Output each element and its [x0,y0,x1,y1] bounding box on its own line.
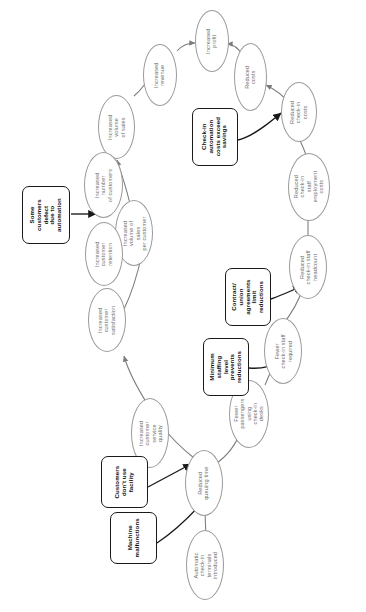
node-label: Increased customer satisfaction [98,305,117,334]
box-label: Contract/ union agreements limit reducti… [231,279,265,314]
node-increased-profit[interactable]: Increased profit [195,10,229,72]
node-label: Fewer check-in staff required [274,334,293,368]
node-increased-revenue[interactable]: Increased revenue [143,44,177,106]
node-label: Automatic check-in terminals introduced [193,547,218,583]
node-label: Increased number of customers [94,168,113,201]
box-label: Machine malfunctions [127,518,141,557]
node-increased-customer-retention[interactable]: Increased customer retention [85,222,123,286]
node-label: Increased profit [206,28,219,53]
node-label: Reduced check-in staff employment costs [293,167,324,207]
box-label: Minimum staffing level prevents reductio… [209,351,243,383]
node-label: Increased customer service quality [138,415,163,451]
node-label: Increased revenue [154,62,167,87]
node-reduced-check-in-staff-headcount[interactable]: Reduced check-in staff headcount [289,235,327,299]
diagram-canvas: Increased profit Increased revenue Reduc… [0,0,366,612]
node-label: Reduced queuing time [198,466,211,499]
box-customers-dont-use-facility[interactable]: Customers don't use facility [101,456,148,508]
node-label: Increased volume of sales [107,114,126,139]
node-label: Increased customer retention [95,241,114,266]
node-reduced-costs[interactable]: Reduced costs [234,43,267,111]
node-increased-number-of-customers[interactable]: Increased number of customers [84,152,123,218]
box-contract-union-agreements-limit-reductions[interactable]: Contract/ union agreements limit reducti… [225,268,271,326]
box-label: Check-in automation costs exceed savings [201,117,228,156]
node-label: Fewer passengers using check-in desks [233,395,264,433]
edge-exceed-cicosts [238,113,281,140]
box-minimum-staffing-level-prevents-reductions[interactable]: Minimum staffing level prevents reductio… [203,338,249,396]
node-reduced-queuing-time[interactable]: Reduced queuing time [185,450,223,516]
node-label: Reduced check-in staff headcount [299,250,318,284]
node-label: Increased volume of sales per customer [122,215,147,251]
node-increased-volume-of-sales[interactable]: Increased volume of sales [98,95,135,159]
node-fewer-check-in-staff-required[interactable]: Fewer check-in staff required [264,318,302,384]
node-reduced-check-in-costs[interactable]: Reduced check-in costs [281,82,317,142]
node-automatic-check-in-terminals-introduced[interactable]: Automatic check-in terminals introduced [186,530,224,600]
node-label: Reduced costs [244,62,257,93]
edge-servicequality-satisfaction [124,356,148,405]
edge-revenue-profit [177,43,195,51]
node-increased-customer-satisfaction[interactable]: Increased customer satisfaction [88,288,126,352]
box-some-customers-defect-due-to-automation[interactable]: Some customers defect due to automation [22,186,70,244]
node-reduced-check-in-staff-employment-costs[interactable]: Reduced check-in staff employment costs [288,153,330,221]
box-machine-malfunctions[interactable]: Machine malfunctions [110,512,157,564]
box-label: Some customers defect due to automation [29,198,63,232]
box-check-in-automation-costs-exceed-savings[interactable]: Check-in automation costs exceed savings [192,108,238,166]
node-label: Reduced check-in costs [290,100,309,123]
box-label: Customers don't use facility [114,466,134,499]
